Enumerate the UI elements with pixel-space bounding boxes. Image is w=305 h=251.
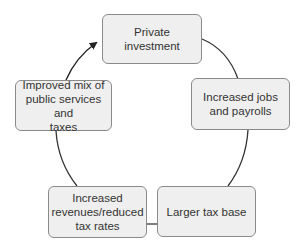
node-increased-jobs: Increased jobs and payrolls — [191, 78, 290, 130]
node-increased-revenues: Increased revenues/reduced tax rates — [48, 186, 147, 238]
node-label: Private investment — [124, 25, 180, 53]
node-larger-tax-base: Larger tax base — [157, 186, 256, 237]
node-private-investment: Private investment — [102, 14, 202, 64]
node-improved-mix: Improved mix of public services and taxe… — [15, 80, 112, 131]
node-label: Improved mix of public services and taxe… — [19, 78, 108, 134]
edge-jobs-to-taxbase — [228, 130, 248, 186]
node-label: Increased jobs and payrolls — [203, 90, 278, 118]
edge-improved-to-private-arrow — [66, 43, 96, 80]
edge-private-to-jobs — [202, 39, 238, 79]
node-label: Larger tax base — [167, 205, 247, 219]
node-label: Increased revenues/reduced tax rates — [51, 191, 143, 233]
edge-revenues-to-improved — [56, 131, 77, 186]
